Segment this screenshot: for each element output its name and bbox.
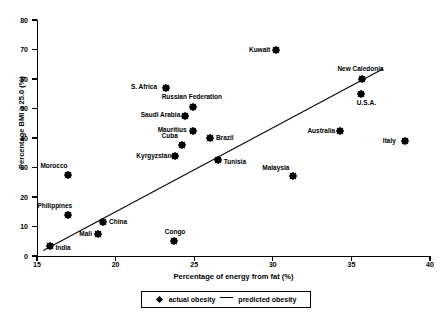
data-point-marker	[401, 137, 409, 145]
data-point-marker	[177, 141, 185, 149]
data-point-marker	[64, 171, 72, 179]
data-point-label: New Caledonia	[337, 65, 383, 72]
x-axis-title: Percentage of energy from fat (%)	[37, 272, 430, 281]
legend-label-actual: actual obesity	[169, 296, 216, 303]
y-tick-label: 60	[2, 76, 28, 83]
y-tick	[32, 196, 37, 197]
x-tick-label: 35	[338, 261, 364, 268]
y-tick	[32, 19, 37, 20]
y-axis-title: Percentage BMI ≥ 25.0 (%)	[17, 48, 26, 198]
data-point-marker	[170, 237, 178, 245]
data-point-marker	[162, 84, 170, 92]
y-tick-label: 20	[2, 194, 28, 201]
x-tick-label: 25	[181, 261, 207, 268]
data-point-marker	[99, 218, 107, 226]
data-point-label: Congo	[165, 228, 186, 235]
y-tick-label: 80	[2, 17, 28, 24]
data-point-label: Russian Federation	[162, 93, 222, 100]
chart-legend: actual obesity predicted obesity	[141, 291, 311, 308]
data-point-label: Brazil	[216, 134, 234, 141]
data-point-label: Cuba	[162, 132, 178, 139]
legend-label-predicted: predicted obesity	[238, 296, 296, 303]
legend-diamond-icon	[156, 296, 164, 304]
data-point-label: Italy	[383, 137, 396, 144]
y-axis-line	[37, 20, 38, 256]
data-point-marker	[358, 75, 366, 83]
data-point-label: S. Africa	[131, 83, 157, 90]
y-tick-label: 50	[2, 105, 28, 112]
x-tick-label: 40	[417, 261, 443, 268]
data-point-label: U.S.A.	[357, 99, 376, 106]
data-point-marker	[357, 90, 365, 98]
data-point-label: Saudi Arabia	[141, 111, 181, 118]
data-point-marker	[94, 230, 102, 238]
data-point-marker	[206, 134, 214, 142]
data-point-marker	[64, 210, 72, 218]
data-point-marker	[188, 103, 196, 111]
y-tick-label: 40	[2, 135, 28, 142]
data-point-marker	[214, 156, 222, 164]
y-tick-label: 0	[2, 253, 28, 260]
legend-line-icon	[220, 297, 233, 298]
x-tick-label: 15	[24, 261, 50, 268]
y-tick	[32, 226, 37, 227]
data-point-marker	[171, 151, 179, 159]
y-tick-label: 70	[2, 46, 28, 53]
y-tick	[32, 78, 37, 79]
data-point-label: Kuwait	[249, 46, 270, 53]
data-point-label: Malaysia	[262, 164, 289, 171]
scatter-plot: Percentage BMI ≥ 25.0 (%) Percentage of …	[0, 0, 446, 322]
x-tick-label: 20	[103, 261, 129, 268]
y-tick	[32, 137, 37, 138]
data-point-marker	[336, 126, 344, 134]
data-point-label: Morocco	[40, 162, 67, 169]
data-point-label: Australia	[307, 127, 335, 134]
data-point-label: India	[56, 244, 71, 251]
data-point-marker	[188, 126, 196, 134]
data-point-label: Tunisia	[224, 158, 246, 165]
data-point-marker	[289, 172, 297, 180]
y-tick-label: 10	[2, 223, 28, 230]
y-tick-label: 30	[2, 164, 28, 171]
data-point-label: Kyrgyzstan	[136, 152, 171, 159]
x-tick-label: 30	[260, 261, 286, 268]
data-point-marker	[181, 112, 189, 120]
data-point-marker	[272, 45, 280, 53]
y-tick	[32, 49, 37, 50]
y-tick	[32, 167, 37, 168]
y-tick	[32, 108, 37, 109]
data-point-label: Philippines	[37, 202, 72, 209]
data-point-marker	[45, 241, 53, 249]
chart-figure: Percentage BMI ≥ 25.0 (%) Percentage of …	[0, 0, 446, 322]
data-point-label: Mali	[79, 230, 92, 237]
x-axis-line	[37, 256, 430, 257]
data-point-label: China	[109, 218, 127, 225]
